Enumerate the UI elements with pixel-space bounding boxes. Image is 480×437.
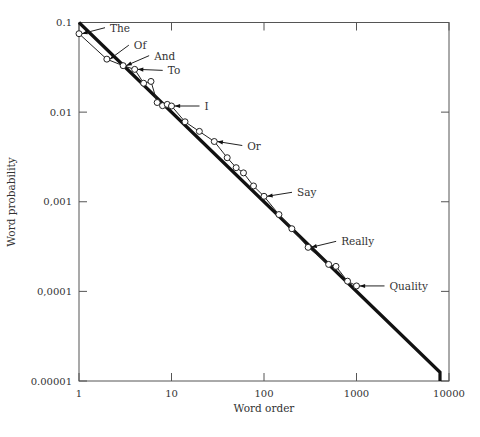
annotation-label: Say	[297, 186, 316, 198]
annotation-i: I	[175, 100, 209, 112]
x-tick-label: 100	[254, 388, 273, 399]
y-tick-label: 0,0001	[37, 286, 72, 297]
y-axis-title: Word probability	[5, 157, 17, 247]
zipf-chart: 110100100010000 0.10.010,0010,00010.0000…	[0, 0, 480, 437]
x-tick-label: 10	[165, 388, 178, 399]
arrow-icon	[138, 68, 144, 72]
data-point-marker	[211, 139, 217, 145]
x-tick-label: 10000	[433, 388, 465, 399]
annotations: TheOfAndToIOrSayReallyQuality	[82, 22, 428, 292]
annotation-label: To	[168, 64, 181, 76]
data-point-marker	[141, 80, 147, 86]
annotation-label: The	[110, 22, 130, 34]
data-point-marker	[148, 78, 154, 84]
data-point-marker	[276, 212, 282, 218]
annotation-quality: Quality	[360, 280, 429, 292]
data-point-marker	[169, 103, 175, 109]
annotation-and: And	[126, 50, 175, 66]
x-axis-title: Word order	[234, 402, 296, 414]
data-point-marker	[240, 170, 246, 176]
data-point-marker	[120, 63, 126, 69]
data-point-marker	[76, 31, 82, 37]
y-tick-label: 0,001	[43, 196, 72, 207]
arrow-icon	[126, 62, 132, 66]
zipf-fit-line	[79, 23, 440, 382]
y-tick-label: 0.01	[50, 107, 72, 118]
data-point-marker	[333, 263, 339, 269]
arrow-icon	[267, 193, 273, 197]
data-point-marker	[233, 165, 239, 171]
arrow-icon	[175, 104, 181, 108]
arrow-icon	[311, 244, 317, 248]
annotation-label: I	[205, 100, 209, 112]
arrow-icon	[82, 30, 88, 34]
data-point-marker	[354, 283, 360, 289]
data-point-marker	[305, 244, 311, 250]
data-point-marker	[261, 193, 267, 199]
x-axis-ticks: 110100100010000	[76, 23, 465, 400]
observed-line	[79, 34, 357, 286]
annotation-label: Really	[341, 235, 374, 247]
annotation-really: Really	[311, 235, 374, 248]
data-point-marker	[104, 56, 110, 62]
annotation-label: Quality	[390, 280, 429, 292]
y-tick-label: 0.00001	[31, 376, 72, 387]
data-point-marker	[251, 183, 257, 189]
annotation-label: Or	[247, 140, 262, 152]
annotation-say: Say	[267, 186, 316, 198]
data-point-marker	[182, 119, 188, 125]
arrow-icon	[360, 284, 366, 288]
arrow-icon	[217, 140, 223, 144]
fit-line	[79, 23, 440, 382]
y-axis-ticks: 0.10.010,0010,00010.00001	[31, 17, 449, 387]
y-tick-label: 0.1	[56, 17, 72, 28]
annotation-label: And	[153, 50, 175, 62]
data-point-marker	[196, 128, 202, 134]
observed-series	[76, 31, 360, 289]
annotation-to: To	[138, 64, 181, 76]
data-point-marker	[326, 261, 332, 267]
data-point-marker	[345, 278, 351, 284]
data-point-marker	[132, 66, 138, 72]
x-tick-label: 1	[76, 388, 82, 399]
annotation-label: Of	[134, 39, 148, 51]
annotation-or: Or	[217, 140, 262, 152]
data-point-marker	[224, 155, 230, 161]
x-tick-label: 1000	[344, 388, 369, 399]
data-point-marker	[289, 226, 295, 232]
